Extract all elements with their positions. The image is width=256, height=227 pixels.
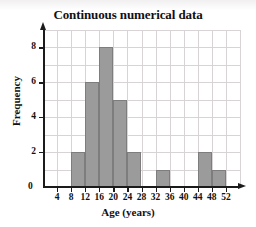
histogram-bar <box>156 170 170 187</box>
gridline-horizontal <box>43 65 240 66</box>
gridline-vertical <box>212 30 213 187</box>
histogram-bar <box>212 170 226 187</box>
y-tick-label: 8 <box>22 41 36 51</box>
y-tick-mark <box>39 47 44 48</box>
histogram-bar <box>198 152 212 187</box>
x-axis-title: Age (years) <box>0 206 256 218</box>
gridline-vertical <box>57 30 58 187</box>
gridline-horizontal <box>43 100 240 101</box>
y-axis-line <box>43 28 45 187</box>
gridline-horizontal <box>43 47 240 48</box>
y-tick-label: 6 <box>22 76 36 86</box>
gridline-vertical <box>156 30 157 187</box>
y-tick-label: 4 <box>22 111 36 121</box>
y-axis-arrow-icon <box>40 22 46 30</box>
histogram-bar <box>127 152 141 187</box>
histogram-bar <box>99 47 113 187</box>
x-axis-arrow-icon <box>238 183 246 189</box>
x-tick-label: 52 <box>216 192 236 202</box>
gridline-vertical <box>240 30 241 187</box>
histogram-bar <box>113 100 127 187</box>
gridline-vertical <box>184 30 185 187</box>
chart-title: Continuous numerical data <box>0 7 256 23</box>
origin-label: 0 <box>28 181 33 191</box>
gridline-vertical <box>226 30 227 187</box>
gridline-horizontal <box>43 135 240 136</box>
gridline-vertical <box>142 30 143 187</box>
y-axis-title: Frequency <box>10 56 22 146</box>
y-tick-mark <box>39 82 44 83</box>
gridline-horizontal <box>43 30 240 31</box>
histogram-bar <box>71 152 85 187</box>
y-tick-mark <box>39 152 44 153</box>
plot-area <box>43 30 240 187</box>
histogram-bar <box>85 82 99 187</box>
gridline-horizontal <box>43 82 240 83</box>
gridline-horizontal <box>43 117 240 118</box>
y-tick-label: 2 <box>22 146 36 156</box>
gridline-vertical <box>170 30 171 187</box>
histogram-chart: Continuous numerical data 48121620242832… <box>0 0 256 227</box>
y-tick-mark <box>39 117 44 118</box>
